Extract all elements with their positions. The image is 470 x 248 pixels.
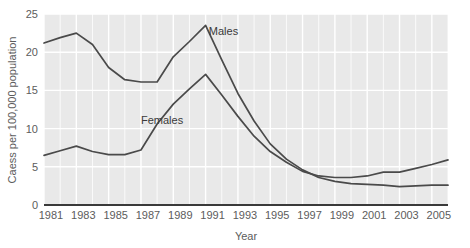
x-axis-tick-labels: 1981198319851987198919911993199519971999… (39, 209, 451, 221)
x-tick-label: 1999 (330, 209, 354, 221)
x-tick-label: 1985 (103, 209, 127, 221)
x-tick-label: 1989 (168, 209, 192, 221)
x-tick-label: 2003 (394, 209, 418, 221)
line-chart-figure: 1981198319851987198919911993199519971999… (0, 0, 470, 248)
x-tick-label: 1991 (200, 209, 224, 221)
y-axis-title: Caess per 100,000 population (6, 37, 18, 184)
x-tick-label: 2001 (362, 209, 386, 221)
y-tick-label: 0 (32, 199, 38, 211)
plot-area-background (44, 14, 448, 205)
x-tick-label: 1983 (71, 209, 95, 221)
series-label-males: Males (209, 25, 239, 37)
y-tick-label: 25 (26, 8, 38, 20)
y-tick-label: 15 (26, 84, 38, 96)
x-tick-label: 1981 (39, 209, 63, 221)
x-axis-title: Year (235, 230, 258, 242)
x-tick-label: 1987 (136, 209, 160, 221)
y-axis-tick-labels: 0510152025 (26, 8, 38, 211)
x-tick-label: 1995 (265, 209, 289, 221)
x-tick-label: 1997 (297, 209, 321, 221)
x-tick-label: 2005 (427, 209, 451, 221)
y-tick-label: 20 (26, 46, 38, 58)
series-label-females: Females (141, 114, 184, 126)
chart-canvas: 1981198319851987198919911993199519971999… (0, 0, 470, 248)
y-tick-label: 5 (32, 161, 38, 173)
y-tick-label: 10 (26, 123, 38, 135)
x-tick-label: 1993 (233, 209, 257, 221)
